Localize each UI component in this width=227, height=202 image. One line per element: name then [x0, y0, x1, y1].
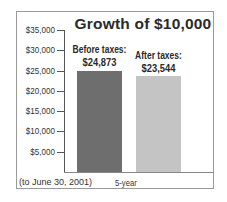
y-tick: [57, 30, 64, 31]
y-tick-label: $30,000: [23, 44, 55, 55]
y-tick: [57, 50, 64, 51]
bar-value: $24,873: [72, 56, 127, 68]
y-tick-label: $20,000: [23, 85, 55, 96]
y-axis: [64, 30, 65, 172]
date-note: (to June 30, 2001): [19, 177, 92, 187]
x-axis: [64, 172, 214, 173]
bar-label-text: After taxes:: [131, 50, 186, 62]
bar-before-taxes: [77, 71, 122, 172]
y-tick: [57, 152, 64, 153]
bar-after-taxes: [136, 76, 181, 172]
y-tick: [57, 131, 64, 132]
bar-value: $23,544: [131, 62, 186, 74]
bar-label-before-taxes: Before taxes: $24,873: [72, 44, 127, 68]
bar-label-text: Before taxes:: [72, 44, 127, 56]
bar-label-after-taxes: After taxes: $23,544: [131, 50, 186, 74]
y-tick-label: $10,000: [23, 125, 55, 136]
y-tick: [57, 71, 64, 72]
y-tick-label: $25,000: [23, 65, 55, 76]
y-tick: [57, 91, 64, 92]
y-tick-label: $5,000: [23, 146, 55, 157]
x-category-label: 5-year: [115, 178, 137, 188]
y-tick: [57, 111, 64, 112]
y-tick-label: $35,000: [23, 24, 55, 35]
chart-title: Growth of $10,000: [72, 15, 214, 33]
y-tick-label: $15,000: [23, 105, 55, 116]
